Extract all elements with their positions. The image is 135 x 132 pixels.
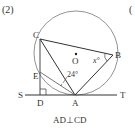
center-dot	[75, 53, 77, 55]
angle-arc-x	[105, 53, 107, 61]
angle-label-24: 24°	[67, 70, 78, 79]
point-label-o: O	[72, 56, 79, 66]
next-problem-label: (	[129, 4, 133, 16]
segment-ca	[40, 39, 75, 95]
right-angle-marker	[40, 89, 46, 95]
caption: AD⊥CD	[53, 115, 87, 125]
point-label-e: E	[33, 71, 39, 81]
problem-label: (2)	[2, 4, 14, 16]
angle-label-x: x°	[92, 56, 101, 65]
point-label-c: C	[33, 30, 39, 40]
angle-arc-24	[61, 84, 62, 86]
point-label-d: D	[37, 98, 44, 108]
geometry-diagram: (2) ( C B O E S T D A x° 24° AD⊥CD	[0, 0, 135, 132]
point-label-t: T	[120, 90, 126, 100]
segment-cb	[40, 39, 113, 55]
point-label-s: S	[18, 90, 23, 100]
point-label-b: B	[115, 50, 121, 60]
point-label-a: A	[72, 98, 79, 108]
